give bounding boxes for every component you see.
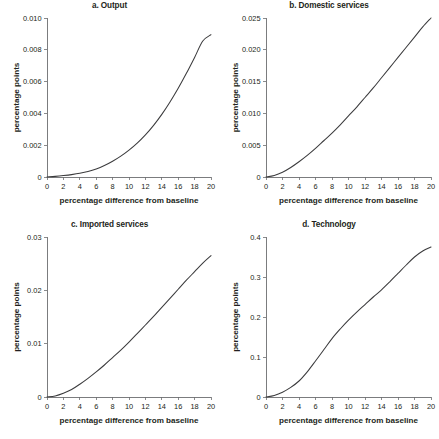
x-tick-label: 10 — [344, 402, 352, 411]
four-panel-figure: a. Output 00.0020.0040.0060.0080.0100246… — [0, 0, 439, 439]
x-tick-label: 8 — [111, 402, 115, 411]
x-tick-label: 8 — [330, 402, 334, 411]
x-tick-label: 12 — [141, 402, 149, 411]
x-tick-label: 2 — [280, 182, 284, 191]
panel-b-domestic-services: b. Domestic services 00.0050.0100.0150.0… — [219, 0, 439, 219]
x-tick-label: 18 — [190, 182, 198, 191]
x-tick-label: 10 — [344, 182, 352, 191]
x-tick-label: 12 — [361, 402, 369, 411]
y-tick-label: 0.025 — [242, 14, 261, 23]
panel-c-imported-services: c. Imported services 00.010.020.03024681… — [0, 219, 219, 439]
data-curve — [266, 18, 431, 177]
panel-a-output: a. Output 00.0020.0040.0060.0080.0100246… — [0, 0, 219, 219]
x-tick-label: 0 — [45, 182, 49, 191]
x-tick-label: 18 — [410, 402, 418, 411]
x-tick-label: 12 — [141, 182, 149, 191]
x-tick-label: 6 — [94, 402, 98, 411]
y-tick-label: 0.005 — [242, 141, 261, 150]
y-tick-label: 0.4 — [250, 233, 260, 242]
x-tick-label: 20 — [207, 182, 215, 191]
data-curve — [47, 35, 211, 177]
x-tick-label: 6 — [94, 182, 98, 191]
y-tick-label: 0.004 — [23, 109, 42, 118]
panel-a-plot: 00.0020.0040.0060.0080.01002468101214161… — [0, 0, 219, 219]
x-tick-label: 18 — [190, 402, 198, 411]
y-tick-label: 0.3 — [250, 273, 260, 282]
panel-d-technology: d. Technology 00.10.20.30.40246810121416… — [219, 219, 439, 439]
x-tick-label: 16 — [174, 402, 182, 411]
x-tick-label: 4 — [297, 182, 301, 191]
x-tick-label: 14 — [377, 402, 385, 411]
y-tick-label: 0.015 — [242, 77, 261, 86]
x-tick-label: 8 — [111, 182, 115, 191]
x-tick-label: 16 — [394, 182, 402, 191]
x-tick-label: 2 — [61, 402, 65, 411]
x-tick-label: 6 — [313, 182, 317, 191]
x-axis-title: percentage difference from baseline — [279, 416, 418, 425]
y-tick-label: 0.010 — [23, 14, 42, 23]
x-tick-label: 10 — [125, 402, 133, 411]
x-tick-label: 0 — [264, 402, 268, 411]
x-tick-label: 4 — [297, 402, 301, 411]
panel-c-plot: 00.010.020.0302468101214161820percentage… — [0, 219, 219, 439]
x-tick-label: 4 — [78, 402, 82, 411]
y-axis-title: percentage points — [12, 62, 21, 132]
y-axis-title: percentage points — [231, 282, 240, 352]
x-tick-label: 0 — [45, 402, 49, 411]
x-tick-label: 0 — [264, 182, 268, 191]
x-tick-label: 10 — [125, 182, 133, 191]
x-axis-title: percentage difference from baseline — [60, 196, 199, 205]
y-axis-title: percentage points — [231, 62, 240, 132]
x-tick-label: 4 — [78, 182, 82, 191]
x-tick-label: 18 — [410, 182, 418, 191]
x-tick-label: 16 — [174, 182, 182, 191]
y-tick-label: 0.02 — [27, 286, 41, 295]
y-tick-label: 0 — [37, 173, 41, 182]
y-tick-label: 0.03 — [27, 233, 41, 242]
panel-d-plot: 00.10.20.30.402468101214161820percentage… — [219, 219, 439, 439]
y-tick-label: 0.010 — [242, 109, 261, 118]
x-tick-label: 2 — [280, 402, 284, 411]
y-tick-label: 0 — [256, 173, 260, 182]
x-tick-label: 2 — [61, 182, 65, 191]
y-tick-label: 0.008 — [23, 45, 42, 54]
data-curve — [47, 256, 211, 397]
x-tick-label: 20 — [427, 182, 435, 191]
x-tick-label: 20 — [427, 402, 435, 411]
y-tick-label: 0.006 — [23, 77, 42, 86]
y-tick-label: 0.01 — [27, 339, 41, 348]
data-curve — [266, 247, 431, 397]
x-tick-label: 8 — [330, 182, 334, 191]
x-tick-label: 14 — [377, 182, 385, 191]
x-axis-title: percentage difference from baseline — [279, 196, 418, 205]
y-tick-label: 0.2 — [250, 313, 260, 322]
y-tick-label: 0.020 — [242, 45, 261, 54]
y-tick-label: 0 — [37, 393, 41, 402]
x-axis-title: percentage difference from baseline — [60, 416, 199, 425]
x-tick-label: 20 — [207, 402, 215, 411]
y-tick-label: 0.002 — [23, 141, 42, 150]
y-tick-label: 0.1 — [250, 353, 260, 362]
x-tick-label: 12 — [361, 182, 369, 191]
x-tick-label: 16 — [394, 402, 402, 411]
x-tick-label: 6 — [313, 402, 317, 411]
y-axis-title: percentage points — [12, 282, 21, 352]
panel-b-plot: 00.0050.0100.0150.0200.02502468101214161… — [219, 0, 439, 219]
y-tick-label: 0 — [256, 393, 260, 402]
x-tick-label: 14 — [158, 182, 166, 191]
x-tick-label: 14 — [158, 402, 166, 411]
